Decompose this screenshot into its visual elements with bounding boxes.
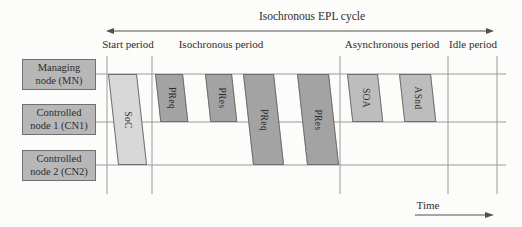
message-label: PRes <box>217 87 227 108</box>
period-label-isochronous: Isochronous period <box>179 38 264 50</box>
message-label: PRes <box>313 109 323 130</box>
node-label-line: node 1 (CN1) <box>30 120 88 133</box>
time-arrowhead-icon <box>485 212 494 218</box>
cycle-span-arrow <box>106 28 494 34</box>
node-box-cn2: Controlled node 2 (CN2) <box>22 150 96 181</box>
message-label: SOA <box>361 88 371 108</box>
message-preq-cn2: PReq <box>243 74 274 165</box>
period-label-asynchronous: Asynchronous period <box>345 38 439 50</box>
diagram-title: Isochronous EPL cycle <box>162 10 462 22</box>
arrowhead-left-icon <box>106 28 114 34</box>
message-preq-cn1: PReq <box>155 74 183 122</box>
message-soc: SoC <box>108 74 137 165</box>
message-soa: SOA <box>347 74 378 122</box>
node-label-line: node (MN) <box>36 75 83 88</box>
epl-cycle-diagram: Isochronous EPL cycle Start period Isoch… <box>0 0 522 227</box>
message-label: ASnd <box>413 86 423 109</box>
message-pres-cn1: PRes <box>205 74 232 122</box>
arrowhead-right-icon <box>486 28 494 34</box>
time-axis-label: Time <box>404 199 452 211</box>
period-label-start: Start period <box>102 38 154 50</box>
message-label: SoC <box>123 111 133 129</box>
node-box-cn1: Controlled node 1 (CN1) <box>22 104 96 135</box>
message-label: PReq <box>259 108 269 130</box>
time-axis-arrow <box>415 212 494 218</box>
node-label-line: Managing <box>38 62 81 75</box>
node-label-line: Controlled <box>37 107 82 120</box>
message-asnd: ASnd <box>399 74 431 122</box>
message-pres-cn2: PRes <box>297 74 329 165</box>
period-label-idle: Idle period <box>449 38 497 50</box>
node-label-line: node 2 (CN2) <box>30 166 88 179</box>
message-label: PReq <box>167 87 177 109</box>
node-label-line: Controlled <box>37 153 82 166</box>
node-box-mn: Managing node (MN) <box>22 59 96 90</box>
